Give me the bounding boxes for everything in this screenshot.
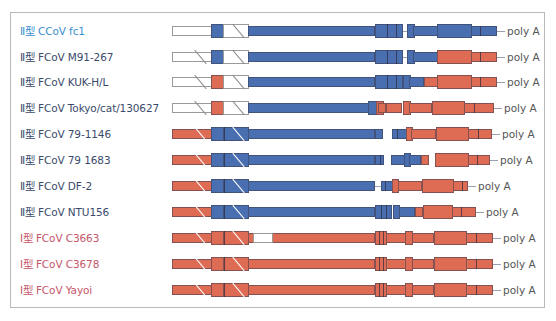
- segment-divider: [476, 233, 477, 243]
- genome-segment: [375, 75, 403, 89]
- utr-segment: [172, 26, 212, 36]
- genome-segment: [466, 259, 493, 269]
- poly-a-label: poly A: [503, 231, 536, 245]
- orf1b-segment: [223, 101, 249, 115]
- connector-line: [468, 186, 476, 187]
- genotype-label: Ⅱ型: [20, 25, 35, 37]
- connector-line: [493, 290, 501, 291]
- segment-divider: [480, 26, 481, 36]
- genome-segment: [471, 26, 497, 36]
- utr-segment: [172, 285, 212, 295]
- orf1b-segment: [223, 257, 249, 271]
- segment-divider: [380, 155, 381, 165]
- connector-line: [497, 31, 505, 32]
- genome-segment: [399, 207, 415, 217]
- segment-divider: [383, 283, 384, 297]
- genotype-label: Ⅰ型: [20, 284, 33, 296]
- segment-divider: [383, 257, 384, 271]
- genotype-label: Ⅱ型: [20, 76, 35, 88]
- segment-divider: [379, 257, 380, 271]
- poly-a-label: poly A: [503, 283, 536, 297]
- strain-label: Ⅱ型CCoV fc1: [20, 24, 85, 38]
- segment-divider: [477, 155, 478, 165]
- poly-a-label: poly A: [507, 50, 540, 64]
- spike-segment: [248, 52, 375, 62]
- genome-segment: [435, 153, 469, 167]
- genome-segment: [413, 26, 438, 36]
- genome-segment: [398, 181, 422, 191]
- strain-label: Ⅱ型FCoV DF-2: [20, 179, 92, 193]
- genome-segment: [471, 52, 497, 62]
- segment-divider: [461, 207, 462, 217]
- strain-label: Ⅰ型FCoV C3663: [20, 231, 99, 245]
- utr-segment: [172, 155, 212, 165]
- segment-divider: [386, 205, 387, 219]
- poly-a-label: poly A: [504, 101, 537, 115]
- segment-divider: [387, 50, 388, 64]
- spike-segment: [248, 207, 375, 217]
- connector-line: [493, 238, 501, 239]
- genome-segment: [409, 77, 424, 87]
- genome-segment: [424, 77, 438, 87]
- poly-a-label: poly A: [500, 153, 533, 167]
- strain-label: Ⅰ型FCoV Yayoi: [20, 283, 92, 297]
- genome-segment: [466, 233, 493, 243]
- strain-name: FCoV DF-2: [38, 180, 92, 192]
- genome-segment: [437, 24, 472, 38]
- genotype-label: Ⅱ型: [20, 206, 35, 218]
- genome-segment: [411, 129, 436, 139]
- segment-divider: [224, 205, 225, 219]
- segment-divider: [224, 257, 225, 271]
- genome-segment: [471, 77, 497, 87]
- spike-segment: [248, 181, 375, 191]
- genotype-label: Ⅱ型: [20, 51, 35, 63]
- genome-segment: [468, 129, 492, 139]
- segment-divider: [224, 127, 225, 141]
- genome-segment: [466, 285, 493, 295]
- orf1b-segment: [223, 205, 249, 219]
- deletion-gap: [253, 233, 273, 243]
- segment-divider: [462, 181, 463, 191]
- strain-label: Ⅱ型FCoV 79 1683: [20, 153, 111, 167]
- genome-segment: [468, 155, 490, 165]
- genome-segment: [412, 285, 434, 295]
- genome-segment: [386, 285, 406, 295]
- connector-line: [476, 212, 484, 213]
- segment-divider: [396, 24, 397, 38]
- spike-segment: [248, 103, 375, 113]
- poly-a-label: poly A: [507, 24, 540, 38]
- segment-divider: [224, 283, 225, 297]
- spike-segment: [248, 285, 375, 295]
- strain-label: Ⅱ型FCoV NTU156: [20, 205, 109, 219]
- strain-name: FCoV KUK-H/L: [38, 76, 108, 88]
- segment-divider: [224, 153, 225, 167]
- segment-divider: [396, 75, 397, 89]
- strain-name: CCoV fc1: [38, 25, 85, 37]
- genome-segment: [409, 103, 432, 113]
- segment-divider: [480, 77, 481, 87]
- poly-a-label: poly A: [507, 75, 540, 89]
- genome-segment: [423, 205, 453, 219]
- genome-segment: [436, 127, 469, 141]
- utr-segment: [172, 207, 212, 217]
- strain-name: FCoV C3678: [36, 258, 99, 270]
- genome-segment: [392, 129, 407, 139]
- genotype-label: Ⅱ型: [20, 102, 35, 114]
- segment-divider: [381, 205, 382, 219]
- strain-name: FCoV Tokyo/cat/130627: [38, 102, 159, 114]
- spike-segment: [248, 77, 375, 87]
- genome-segment: [386, 233, 406, 243]
- connector-line: [494, 108, 502, 109]
- genotype-label: Ⅰ型: [20, 258, 33, 270]
- genome-segment: [375, 205, 392, 219]
- genome-segment: [378, 103, 386, 113]
- genome-segment: [412, 259, 434, 269]
- orf1b-segment: [223, 127, 249, 141]
- connector-line: [490, 160, 498, 161]
- strain-name: FCoV C3663: [36, 232, 99, 244]
- spike-segment: [248, 26, 375, 36]
- poly-a-label: poly A: [478, 179, 511, 193]
- segment-divider: [476, 259, 477, 269]
- segment-divider: [478, 129, 479, 139]
- poly-a-label: poly A: [502, 127, 535, 141]
